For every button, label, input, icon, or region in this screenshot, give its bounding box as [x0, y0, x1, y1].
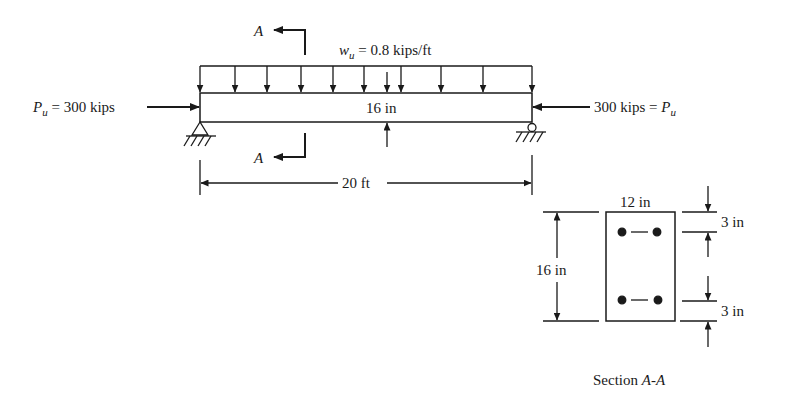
top-cover-dimension	[682, 186, 717, 257]
top-cover-label: 3 in	[721, 214, 744, 230]
beam-diagram: wu = 0.8 kips/ft Pu = 300 kips 300 kips …	[0, 0, 789, 403]
section-cut-marker-top	[274, 30, 305, 55]
pin-support-icon	[184, 122, 216, 146]
section-cut-marker-bottom	[274, 133, 305, 157]
section-height-label: 16 in	[536, 262, 567, 278]
section-marker-bottom-label: A	[253, 150, 264, 166]
section-caption: Section A-A	[593, 372, 666, 388]
right-axial-force-label: 300 kips = Pu	[594, 99, 676, 118]
beam-depth-label: 16 in	[366, 100, 397, 116]
distributed-load-label: wu = 0.8 kips/ft	[339, 42, 432, 61]
section-marker-top-label: A	[253, 23, 264, 39]
bottom-cover-label: 3 in	[721, 303, 744, 319]
section-width-label: 12 in	[620, 194, 651, 210]
bottom-cover-dimension	[680, 276, 717, 347]
cross-section-outline	[606, 212, 675, 321]
distributed-load	[200, 66, 532, 92]
left-axial-force-label: Pu = 300 kips	[32, 99, 115, 118]
roller-support-icon	[516, 124, 546, 143]
span-label: 20 ft	[342, 175, 371, 191]
